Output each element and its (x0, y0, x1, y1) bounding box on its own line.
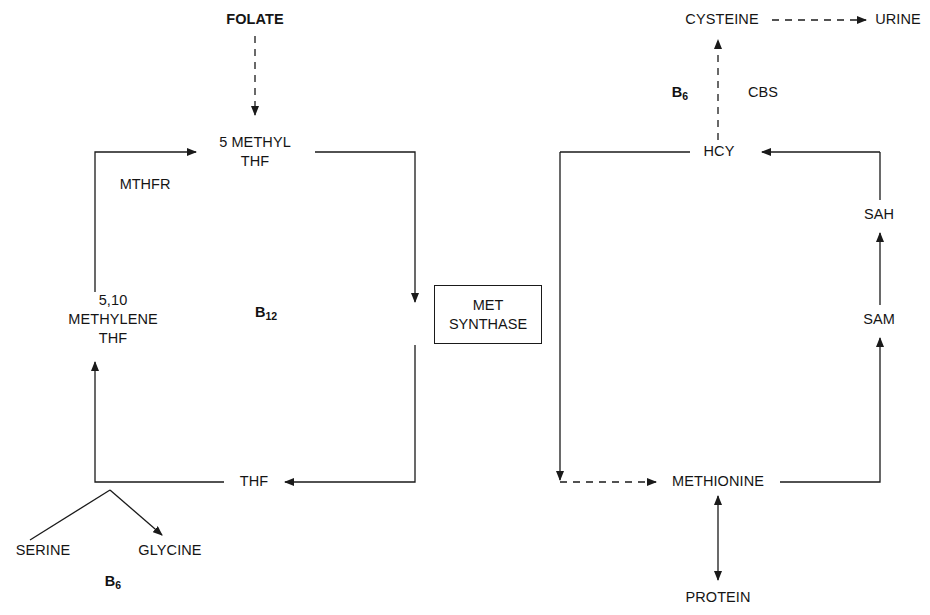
edge-serine-to-junction (30, 490, 110, 540)
edge-metsynthase-to-thf (285, 345, 415, 482)
pathway-diagram: FOLATE 5 METHYL THF 5,10 METHYLENE THF T… (0, 0, 930, 615)
cofactor-label-b6-serine: B6 (105, 573, 121, 589)
cofactor-b6-serine-letter: B (105, 573, 115, 589)
node-methionine: METHIONINE (672, 472, 764, 491)
node-serine: SERINE (16, 541, 71, 560)
node-protein: PROTEIN (685, 588, 750, 607)
node-sam: SAM (863, 310, 895, 329)
cofactor-b6-serine-subscript: 6 (115, 579, 121, 591)
node-510-methylene-thf: 5,10 METHYLENE THF (68, 291, 158, 348)
node-folate: FOLATE (226, 10, 284, 29)
cofactor-b6-cbs-subscript: 6 (682, 90, 688, 102)
edge-junction-to-glycine (110, 490, 162, 535)
node-hcy: HCY (704, 142, 735, 161)
enzyme-box-met-synthase: MET SYNTHASE (434, 285, 542, 344)
edge-5methylthf-to-metsynthase (315, 152, 415, 302)
edge-thf-to-methylenethf (95, 362, 224, 482)
node-urine: URINE (875, 10, 921, 29)
node-5-methyl-thf: 5 METHYL THF (219, 133, 291, 171)
node-glycine: GLYCINE (138, 541, 201, 560)
edge-methylenethf-to-5methylthf (95, 152, 196, 292)
node-thf: THF (240, 472, 269, 491)
node-cysteine: CYSTEINE (685, 10, 758, 29)
cofactor-b12-subscript: 12 (265, 310, 277, 322)
cofactor-label-b12: B12 (255, 304, 277, 320)
enzyme-label-mthfr: MTHFR (120, 176, 171, 192)
enzyme-box-met-synthase-label: MET SYNTHASE (449, 296, 527, 334)
cofactor-label-b6-cbs: B6 (672, 84, 688, 100)
edge-methionine-to-sam (780, 338, 880, 482)
enzyme-label-cbs: CBS (748, 84, 778, 100)
node-sah: SAH (864, 205, 894, 224)
cofactor-b12-letter: B (255, 304, 265, 320)
cofactor-b6-cbs-letter: B (672, 84, 682, 100)
